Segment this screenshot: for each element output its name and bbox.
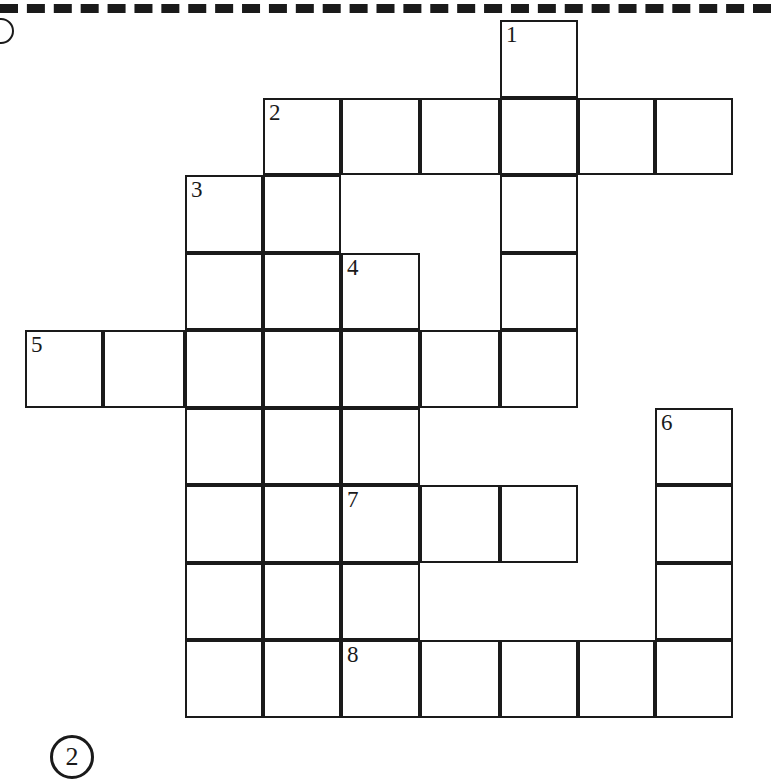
- crossword-cell[interactable]: [185, 408, 263, 485]
- crossword-cell[interactable]: [500, 640, 578, 718]
- cell-clue-number: 1: [506, 22, 518, 48]
- crossword-cell[interactable]: [655, 563, 733, 640]
- crossword-cell[interactable]: [263, 408, 341, 485]
- crossword-cell[interactable]: [341, 408, 420, 485]
- crossword-cell-4[interactable]: 4: [341, 253, 420, 330]
- crossword-cell[interactable]: [263, 640, 341, 718]
- cell-clue-number: 2: [269, 100, 281, 126]
- crossword-cell[interactable]: [500, 98, 578, 175]
- crossword-cell[interactable]: [341, 98, 420, 175]
- crossword-cell-5[interactable]: 5: [25, 330, 103, 408]
- crossword-cell[interactable]: [420, 98, 500, 175]
- crossword-cell[interactable]: [500, 485, 578, 563]
- crossword-cell[interactable]: [578, 640, 655, 718]
- crossword-cell[interactable]: [263, 330, 341, 408]
- crossword-cell[interactable]: [341, 330, 420, 408]
- crossword-cell[interactable]: [103, 330, 185, 408]
- crossword-cell[interactable]: [263, 563, 341, 640]
- crossword-cell-8[interactable]: 8: [341, 640, 420, 718]
- crossword-cell[interactable]: [655, 98, 733, 175]
- crossword-cell[interactable]: [420, 485, 500, 563]
- cell-clue-number: 4: [347, 255, 359, 281]
- crossword-cell[interactable]: [655, 485, 733, 563]
- crossword-cell-1[interactable]: 1: [500, 20, 578, 98]
- cell-clue-number: 3: [191, 177, 203, 203]
- cell-clue-number: 7: [347, 487, 359, 513]
- cell-clue-number: 5: [31, 332, 43, 358]
- crossword-cell-7[interactable]: 7: [341, 485, 420, 563]
- cell-clue-number: 8: [347, 642, 359, 668]
- crossword-cell[interactable]: [500, 253, 578, 330]
- crossword-cell[interactable]: [185, 563, 263, 640]
- crossword-cell[interactable]: [263, 485, 341, 563]
- crossword-cell-6[interactable]: 6: [655, 408, 733, 485]
- crossword-cell[interactable]: [500, 175, 578, 253]
- crossword-cell[interactable]: [263, 175, 341, 253]
- crossword-cell-2[interactable]: 2: [263, 98, 341, 175]
- crossword-cell[interactable]: [500, 330, 578, 408]
- crossword-cell[interactable]: [578, 98, 655, 175]
- crossword-cell[interactable]: [341, 563, 420, 640]
- crossword-cell[interactable]: [263, 253, 341, 330]
- page-number-label: 2: [66, 742, 79, 772]
- crossword-cell[interactable]: [185, 330, 263, 408]
- crossword-cell[interactable]: [420, 640, 500, 718]
- cell-clue-number: 6: [661, 410, 673, 436]
- crossword-cell-3[interactable]: 3: [185, 175, 263, 253]
- crossword-cell[interactable]: [420, 330, 500, 408]
- page-number-badge: 2: [50, 735, 94, 779]
- crossword-cell[interactable]: [655, 640, 733, 718]
- crossword-cell[interactable]: [185, 640, 263, 718]
- crossword-cell[interactable]: [185, 253, 263, 330]
- crossword-cell[interactable]: [185, 485, 263, 563]
